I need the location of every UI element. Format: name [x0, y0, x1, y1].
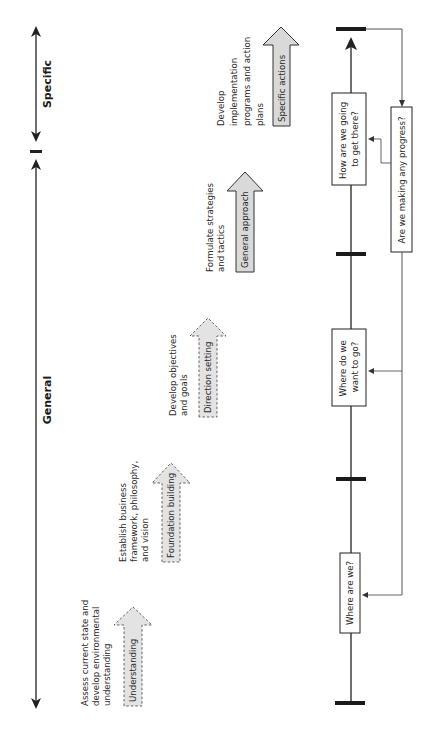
strategic-planning-diagram: Specific General Assess current state an… — [0, 0, 445, 741]
question-how-are-we-going-to-get-there: How are we going to get there? — [332, 93, 366, 185]
stage-foundation-description: Establish business framework, philosophy… — [118, 458, 150, 562]
stage-direction-description: Develop objectives and goals — [168, 331, 189, 416]
question-where-are-we: Where are we? — [340, 553, 360, 633]
feedback-branch-how — [372, 139, 391, 163]
stage-understanding-description: Assess current state and develop environ… — [80, 597, 112, 706]
feedback-arrowhead-where-are-icon — [362, 592, 368, 598]
feedback-arrowhead-where-go-icon — [368, 368, 374, 374]
specific-actions-arrow-label: Specific actions — [277, 54, 287, 122]
direction-setting-arrow-label: Direction setting — [203, 342, 213, 413]
stage-general-approach-description: Formulate strategies and tactics — [205, 180, 226, 272]
stage-specific-actions-description: Develop implementation programs and acti… — [216, 34, 265, 126]
feedback-line-top — [366, 29, 402, 103]
timeline-bar-top — [336, 27, 366, 31]
feedback-arrowhead-how-icon — [368, 136, 374, 142]
timeline-bar-bottom — [335, 701, 365, 705]
scope-axis: Specific General — [30, 26, 54, 709]
timeline-tick-2 — [336, 477, 366, 481]
question-where-do-we-want-to-go: Where do we want to go? — [332, 329, 366, 406]
stage-specific-actions: Develop implementation programs and acti… — [216, 27, 299, 126]
feedback-loop: Are we making any progress? — [362, 29, 412, 598]
general-approach-arrow-label: General approach — [240, 191, 250, 268]
stage-general-approach: Formulate strategies and tactics General… — [205, 172, 263, 272]
planning-timeline: Where are we? Where do we want to go? Ho… — [332, 27, 366, 705]
stage-foundation-building: Establish business framework, philosophy… — [118, 458, 190, 562]
stage-direction-setting: Develop objectives and goals Direction s… — [168, 318, 226, 417]
understanding-arrow-label: Understanding — [128, 639, 138, 702]
stage-understanding: Assess current state and develop environ… — [80, 597, 152, 706]
timeline-tick-3 — [336, 252, 366, 256]
general-label: General — [41, 376, 54, 424]
specific-label: Specific — [41, 60, 54, 108]
feedback-arrowhead-down-icon — [399, 100, 405, 107]
progress-check-label: Are we making any progress? — [397, 116, 407, 243]
foundation-building-arrow-label: Foundation building — [166, 473, 176, 558]
question-where-are-we-label: Where are we? — [345, 561, 355, 625]
scope-divider-tick — [30, 150, 42, 153]
